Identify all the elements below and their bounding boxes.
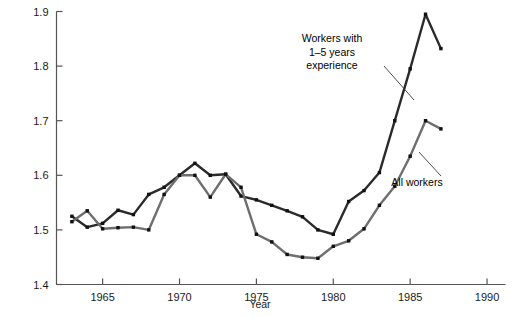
data-point (347, 239, 350, 242)
y-tick-label-1.5: 1.5 (33, 224, 48, 236)
data-point (362, 227, 365, 230)
series-1 (70, 119, 442, 260)
y-tick-label-1.6: 1.6 (33, 169, 48, 181)
data-point (147, 228, 150, 231)
data-point (316, 228, 319, 231)
data-point (224, 173, 227, 176)
data-point (332, 233, 335, 236)
annotation-text-line: All workers (391, 176, 442, 188)
data-point (209, 195, 212, 198)
axes-group (57, 12, 506, 285)
y-tick-label-1.4: 1.4 (33, 279, 48, 291)
data-point (332, 245, 335, 248)
data-point (424, 119, 427, 122)
y-tick-label-1.7: 1.7 (33, 115, 48, 127)
data-point (116, 209, 119, 212)
annotation-text-line: Workers with (302, 32, 363, 44)
data-point (193, 174, 196, 177)
data-point (70, 220, 73, 223)
annotation-experienced-workers: Workers with1–5 yearsexperience (302, 32, 414, 100)
data-point (255, 233, 258, 236)
data-point (301, 215, 304, 218)
data-point (424, 13, 427, 16)
data-point (393, 119, 396, 122)
data-point (301, 256, 304, 259)
data-point (255, 198, 258, 201)
data-point (408, 154, 411, 157)
data-point (70, 215, 73, 218)
data-point (408, 67, 411, 70)
data-point (378, 204, 381, 207)
data-point (178, 174, 181, 177)
data-point (270, 240, 273, 243)
data-point (316, 257, 319, 260)
data-point (132, 225, 135, 228)
data-point (101, 222, 104, 225)
data-point (101, 227, 104, 230)
line-chart-plot: 1.41.51.61.71.81.91965197019751980198519… (0, 0, 520, 317)
data-series-group (70, 13, 442, 260)
data-point (193, 162, 196, 165)
data-point (239, 186, 242, 189)
annotation-text-line: experience (306, 59, 358, 71)
data-point (86, 225, 89, 228)
data-point (116, 226, 119, 229)
data-point (362, 189, 365, 192)
annotation-all-workers: All workers (391, 152, 442, 188)
data-point (285, 209, 288, 212)
data-point (439, 47, 442, 50)
annotation-text-line: 1–5 years (309, 46, 355, 58)
data-point (285, 253, 288, 256)
leader-line (419, 152, 441, 176)
data-point (439, 127, 442, 130)
series-line-1 (72, 121, 441, 259)
y-tick-label-1.9: 1.9 (33, 6, 48, 18)
data-point (132, 213, 135, 216)
axis-lines (57, 12, 506, 285)
y-tick-label-1.8: 1.8 (33, 60, 48, 72)
data-point (270, 204, 273, 207)
chart-container: 1.41.51.61.71.81.91965197019751980198519… (0, 0, 520, 317)
data-point (209, 174, 212, 177)
data-point (86, 209, 89, 212)
tick-labels-group: 1.41.51.61.71.81.91965197019751980198519… (33, 6, 499, 303)
data-point (347, 200, 350, 203)
annotations-group: Workers with1–5 yearsexperienceAll worke… (302, 32, 443, 188)
data-point (378, 171, 381, 174)
data-point (239, 194, 242, 197)
data-point (162, 193, 165, 196)
x-axis-title: Year (0, 298, 520, 310)
data-point (147, 193, 150, 196)
series-0 (70, 13, 442, 236)
data-point (162, 186, 165, 189)
